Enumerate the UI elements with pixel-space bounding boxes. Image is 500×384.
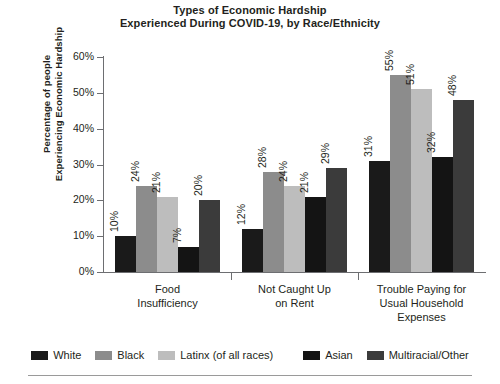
chart-title: Types of Economic Hardship Experienced D… [0, 4, 500, 30]
legend-swatch-icon [158, 351, 175, 360]
legend-label: Latinx (of all races) [180, 349, 273, 361]
y-axis-title-line-1: Percentage of people [41, 4, 53, 204]
bar-value-label: 48% [447, 75, 458, 96]
category-label-line: on Rent [231, 296, 358, 310]
y-axis-tick [97, 272, 103, 273]
chart-title-line-1: Types of Economic Hardship [0, 4, 500, 17]
legend-swatch-icon [95, 351, 112, 360]
bar[interactable]: 21% [305, 197, 326, 272]
category-label-line: Not Caught Up [231, 282, 358, 296]
y-axis-tick-label: 50% [2, 86, 94, 98]
y-axis-tick-label: 60% [2, 50, 94, 62]
x-axis-category-label: Trouble Paying forUsual HouseholdExpense… [358, 282, 485, 324]
bar-group: 10%24%21%7%20% [104, 57, 231, 272]
x-axis-category-label: FoodInsufficiency [104, 282, 231, 310]
legend-swatch-icon [31, 351, 48, 360]
bar-value-label: 10% [109, 211, 120, 232]
bar-value-label: 20% [193, 175, 204, 196]
group-separator-tick [231, 273, 232, 280]
y-axis-tick-label: 40% [2, 122, 94, 134]
x-axis-category-label: Not Caught Upon Rent [231, 282, 358, 310]
bar[interactable]: 31% [369, 161, 390, 272]
legend-label: Black [117, 349, 144, 361]
plot-area: 10%24%21%7%20%12%28%24%21%29%31%55%51%32… [104, 57, 485, 272]
chart-title-line-2: Experienced During COVID-19, by Race/Eth… [0, 17, 500, 30]
bar-value-label: 32% [426, 132, 437, 153]
x-axis-line [103, 272, 486, 273]
y-axis-tick-label: 30% [2, 158, 94, 170]
legend-label: Asian [325, 349, 353, 361]
bar[interactable]: 10% [115, 236, 136, 272]
bar[interactable]: 7% [178, 247, 199, 272]
bar[interactable]: 32% [432, 157, 453, 272]
y-axis-tick [97, 57, 103, 58]
category-label-line: Expenses [358, 310, 485, 324]
bar[interactable]: 28% [263, 172, 284, 272]
bar-value-label: 28% [257, 147, 268, 168]
chart-legend: WhiteBlackLatinx (of all races)AsianMult… [0, 349, 500, 361]
legend-label: Multiracial/Other [389, 349, 469, 361]
bar[interactable]: 51% [411, 89, 432, 272]
bar-value-label: 51% [405, 64, 416, 85]
bar-group: 31%55%51%32%48% [358, 57, 485, 272]
bar-value-label: 24% [278, 161, 289, 182]
bar[interactable]: 55% [390, 75, 411, 272]
category-label-line: Insufficiency [104, 296, 231, 310]
category-label-line: Usual Household [358, 296, 485, 310]
legend-swatch-icon [303, 351, 320, 360]
legend-item[interactable]: Black [95, 349, 144, 361]
y-axis-tick [97, 200, 103, 201]
bar[interactable]: 12% [242, 229, 263, 272]
bar-value-label: 21% [299, 172, 310, 193]
legend-item[interactable]: White [31, 349, 81, 361]
y-axis-tick-label: 0% [2, 265, 94, 277]
y-axis-tick-label: 10% [2, 229, 94, 241]
bar[interactable]: 24% [284, 186, 305, 272]
bar[interactable]: 48% [453, 100, 474, 272]
y-axis-tick [97, 236, 103, 237]
legend-item[interactable]: Multiracial/Other [367, 349, 469, 361]
bottom-divider [28, 375, 472, 376]
group-separator-tick [358, 273, 359, 280]
category-label-line: Trouble Paying for [358, 282, 485, 296]
y-axis-tick-label: 20% [2, 193, 94, 205]
legend-item[interactable]: Latinx (of all races) [158, 349, 273, 361]
legend-swatch-icon [367, 351, 384, 360]
bar-value-label: 55% [384, 50, 395, 71]
y-axis-tick [97, 129, 103, 130]
bar[interactable]: 20% [199, 200, 220, 272]
bar-value-label: 24% [130, 161, 141, 182]
y-axis-tick [97, 165, 103, 166]
bar-value-label: 7% [172, 228, 183, 243]
bar[interactable]: 24% [136, 186, 157, 272]
bar[interactable]: 29% [326, 168, 347, 272]
category-label-line: Food [104, 282, 231, 296]
bar-value-label: 21% [151, 172, 162, 193]
bar-group: 12%28%24%21%29% [231, 57, 358, 272]
bar-value-label: 12% [236, 204, 247, 225]
legend-label: White [53, 349, 81, 361]
y-axis-title: Percentage of people Experiencing Econom… [41, 4, 65, 204]
y-axis-tick [97, 93, 103, 94]
legend-item[interactable]: Asian [303, 349, 353, 361]
bar-value-label: 29% [320, 143, 331, 164]
y-axis-title-line-2: Experiencing Economic Hardship [53, 4, 65, 204]
bar-value-label: 31% [363, 136, 374, 157]
